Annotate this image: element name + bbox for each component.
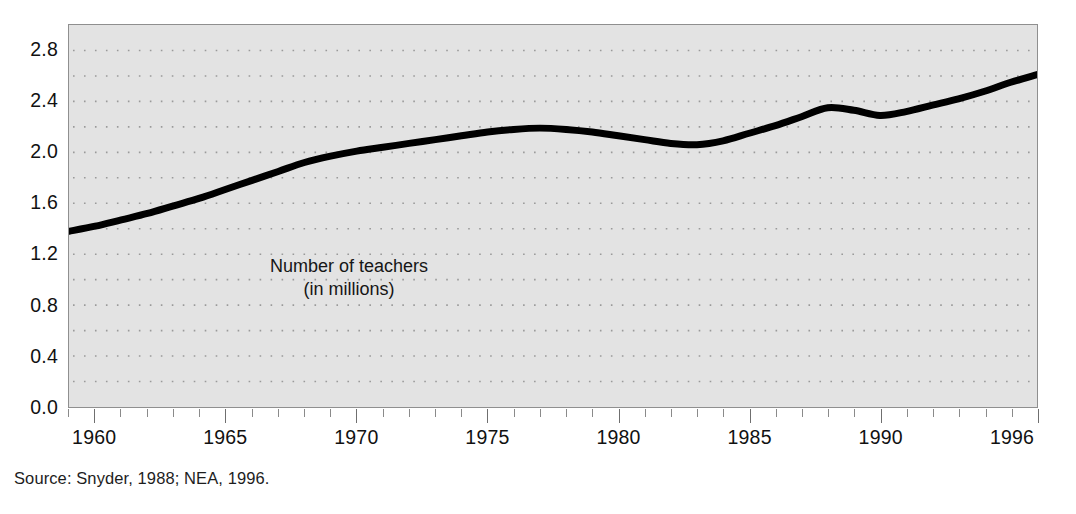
y-tick-label: 1.2 [0,245,58,265]
x-tick-minor [907,409,908,417]
x-tick-major [94,409,95,423]
x-tick-minor [959,409,960,417]
x-tick-minor [173,409,174,417]
y-axis: 0.00.40.81.21.62.02.42.8 [0,24,58,408]
x-tick-label: 1990 [859,428,903,448]
x-tick-minor [409,409,410,417]
y-tick-label: 1.6 [0,193,58,213]
x-tick-major [750,409,751,423]
x-tick-minor [723,409,724,417]
x-tick-minor [199,409,200,417]
x-tick-minor [304,409,305,417]
x-tick-minor [120,409,121,417]
x-tick-label: 1975 [465,428,509,448]
x-tick-minor [68,409,69,417]
x-tick-minor [278,409,279,417]
y-tick-label: 0.8 [0,296,58,316]
x-tick-minor [461,409,462,417]
source-note: Source: Snyder, 1988; NEA, 1996. [14,470,269,487]
x-tick-label: 1960 [72,428,116,448]
teachers-line-chart-figure: 0.00.40.81.21.62.02.42.8 Number of teach… [0,0,1076,514]
x-axis-labels: 19601965197019751980198519901996 [68,428,1038,454]
plot-area: Number of teachers (in millions) [68,24,1038,408]
x-tick-minor [802,409,803,417]
y-tick-label: 0.0 [0,398,58,418]
x-tick-minor [383,409,384,417]
x-tick-label: 1965 [203,428,247,448]
x-tick-label: 1970 [334,428,378,448]
x-tick-minor [252,409,253,417]
x-tick-minor [540,409,541,417]
x-tick-minor [147,409,148,417]
x-tick-minor [330,409,331,417]
x-tick-minor [933,409,934,417]
x-tick-minor [645,409,646,417]
y-tick-label: 0.4 [0,347,58,367]
data-series-line [69,25,1037,407]
x-tick-major [487,409,488,423]
x-tick-major [356,409,357,423]
series-path [69,75,1037,232]
x-tick-minor [592,409,593,417]
x-tick-major [225,409,226,423]
x-tick-major [881,409,882,423]
x-tick-minor [828,409,829,417]
x-tick-major [619,409,620,423]
y-tick-label: 2.0 [0,142,58,162]
x-tick-minor [671,409,672,417]
x-tick-label: 1980 [596,428,640,448]
x-tick-minor [435,409,436,417]
x-tick-minor [776,409,777,417]
x-tick-minor [514,409,515,417]
y-tick-label: 2.8 [0,40,58,60]
x-tick-label: 1985 [728,428,772,448]
x-tick-major [1038,409,1039,423]
x-tick-minor [986,409,987,417]
x-axis-ticks [68,409,1038,423]
x-tick-minor [566,409,567,417]
x-tick-label: 1996 [990,428,1034,448]
x-tick-minor [697,409,698,417]
x-tick-minor [854,409,855,417]
y-tick-label: 2.4 [0,91,58,111]
x-tick-minor [1012,409,1013,417]
